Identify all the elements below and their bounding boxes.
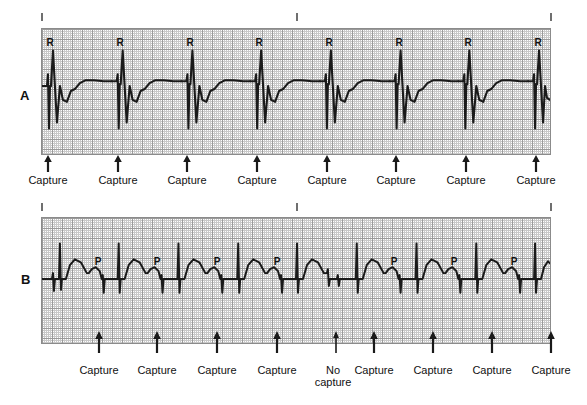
panel-b-tick-mid xyxy=(296,203,298,211)
panel-a-capture-arrow xyxy=(114,155,123,172)
panel-b-beat-label: P xyxy=(391,256,398,267)
panel-a-capture-label: Capture xyxy=(446,174,485,186)
panel-a-capture-arrow xyxy=(44,155,53,172)
panel-a-capture-label: Capture xyxy=(307,174,346,186)
panel-a-beat-label: R xyxy=(395,37,402,48)
panel-b-no-capture-label: No capture xyxy=(315,364,352,388)
panel-a-capture-label: Capture xyxy=(28,174,67,186)
panel-a-capture-arrow xyxy=(532,155,541,172)
panel-b-capture-label: Capture xyxy=(531,364,570,376)
panel-b-capture-arrow xyxy=(95,331,104,353)
panel-b-label: B xyxy=(21,272,30,287)
panel-b-trace xyxy=(42,218,550,343)
panel-a-capture-arrow xyxy=(392,155,401,172)
panel-a-capture-label: Capture xyxy=(376,174,415,186)
panel-a-label: A xyxy=(20,88,29,103)
ecg-figure: A xyxy=(0,0,587,405)
panel-b-capture-arrow xyxy=(429,331,438,353)
panel-a-capture-label: Capture xyxy=(237,174,276,186)
panel-a-strip: R R R R R R R R xyxy=(41,28,551,155)
panel-a-beat-label: R xyxy=(46,37,53,48)
panel-a-beat-label: R xyxy=(534,37,541,48)
panel-b-capture-arrow xyxy=(547,331,556,353)
panel-b-capture-label: Capture xyxy=(257,364,296,376)
panel-a-beat-label: R xyxy=(186,37,193,48)
panel-b-capture-arrow xyxy=(370,331,379,353)
panel-b-capture-arrow xyxy=(273,331,282,353)
panel-b-capture-label: Capture xyxy=(413,364,452,376)
panel-b-capture-label: Capture xyxy=(79,364,118,376)
panel-a-beat-label: R xyxy=(116,37,123,48)
panel-a-beat-label: R xyxy=(255,37,262,48)
panel-b-capture-arrow xyxy=(488,331,497,353)
panel-b-capture-label: Capture xyxy=(354,364,393,376)
panel-a-capture-arrow xyxy=(253,155,262,172)
panel-a-beat-label: R xyxy=(464,37,471,48)
panel-b-beat-label: P xyxy=(154,256,161,267)
panel-b-capture-arrow xyxy=(213,331,222,353)
panel-a-capture-label: Capture xyxy=(167,174,206,186)
panel-b-beat-label: P xyxy=(214,256,221,267)
panel-b-capture-label: Capture xyxy=(137,364,176,376)
panel-b-capture-arrow xyxy=(153,331,162,353)
panel-b-no-capture-arrow xyxy=(333,331,340,353)
panel-b-capture-label: Capture xyxy=(472,364,511,376)
panel-a-beat-label: R xyxy=(325,37,332,48)
panel-a-tick-right xyxy=(550,13,552,21)
panel-b-tick-right xyxy=(550,203,552,211)
panel-b-tick-left xyxy=(41,203,43,211)
panel-b-strip: P P P P P P P xyxy=(41,217,551,344)
panel-b-beat-label: P xyxy=(274,256,281,267)
panel-b-beat-label: P xyxy=(95,256,102,267)
panel-b-beat-label: P xyxy=(511,256,518,267)
panel-b-capture-label: Capture xyxy=(197,364,236,376)
panel-a-capture-arrow xyxy=(462,155,471,172)
panel-a-tick-left xyxy=(41,13,43,21)
panel-a-capture-label: Capture xyxy=(516,174,555,186)
panel-a-capture-arrow xyxy=(323,155,332,172)
panel-a-capture-arrow xyxy=(183,155,192,172)
panel-a-tick-mid xyxy=(296,13,298,21)
panel-b-beat-label: P xyxy=(451,256,458,267)
panel-a-capture-label: Capture xyxy=(98,174,137,186)
